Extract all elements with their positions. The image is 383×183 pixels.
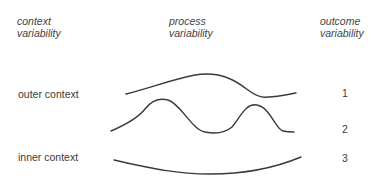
curve-1 [126, 74, 296, 97]
curve-3 [114, 157, 301, 174]
process-curves [0, 0, 383, 183]
curve-2 [111, 99, 294, 133]
